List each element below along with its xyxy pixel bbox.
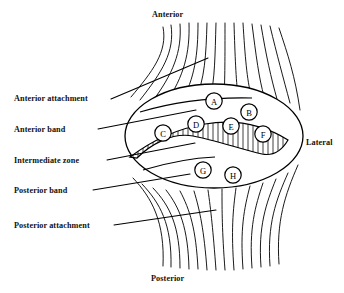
reference-point-c: C (155, 125, 171, 141)
structure-label-anterior-attachment: Anterior attachment (14, 95, 88, 103)
reference-point-e: E (223, 118, 239, 134)
reference-point-e-label: E (228, 122, 233, 132)
reference-point-f-label: F (261, 130, 266, 140)
diagram-canvas: A B C D E F G (0, 0, 344, 293)
orientation-label-posterior: Posterior (151, 275, 184, 283)
reference-point-d: D (188, 116, 204, 132)
structure-label-intermediate-zone: Intermediate zone (14, 157, 79, 165)
reference-point-f: F (255, 126, 271, 142)
anatomical-figure: A B C D E F G (0, 0, 344, 293)
orientation-label-lateral: Lateral (306, 139, 333, 147)
reference-point-g: G (195, 162, 211, 178)
structure-label-anterior-band: Anterior band (14, 126, 65, 134)
orientation-label-anterior: Anterior (152, 11, 183, 19)
reference-point-b: B (241, 104, 257, 120)
reference-point-c-label: C (160, 129, 166, 139)
reference-point-a-label: A (211, 97, 218, 107)
structure-label-posterior-band: Posterior band (14, 187, 67, 195)
reference-point-b-label: B (246, 108, 252, 118)
reference-point-d-label: D (193, 120, 199, 130)
reference-point-h-label: H (230, 171, 236, 181)
reference-point-h: H (225, 167, 241, 183)
reference-point-g-label: G (200, 166, 206, 176)
structure-label-posterior-attachment: Posterior attachment (14, 222, 90, 230)
reference-point-a: A (206, 93, 222, 109)
